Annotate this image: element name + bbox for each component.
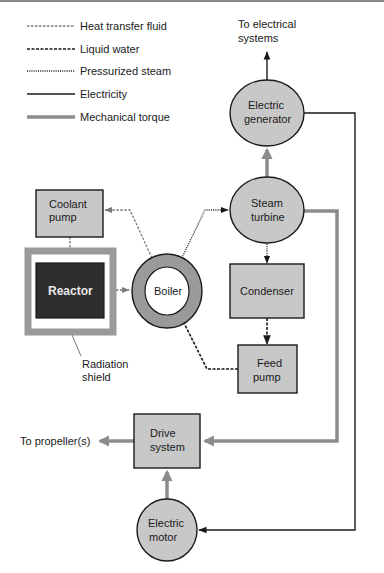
node-label: Condenser <box>240 285 294 297</box>
node-label: Drive <box>150 427 176 439</box>
steam-turbine-node: Steam turbine <box>230 177 304 243</box>
legend-label: Pressurized steam <box>80 65 171 77</box>
drive-system-node: Drive system <box>134 414 200 468</box>
node-label: Reactor <box>48 284 93 298</box>
electricity-to-motor-arrow <box>199 113 355 530</box>
node-label: pump <box>49 211 77 223</box>
legend-item-pressurized-steam: Pressurized steam <box>27 65 171 77</box>
to-electrical-systems-label: systems <box>238 32 279 44</box>
electric-generator-node: Electric generator <box>230 80 304 146</box>
node-label: Electric <box>148 517 185 529</box>
boiler-node: Boiler <box>132 254 202 328</box>
coolant-pump-node: Coolant pump <box>36 190 103 237</box>
propulsion-diagram: Heat transfer fluid Liquid water Pressur… <box>0 0 384 573</box>
legend: Heat transfer fluid Liquid water Pressur… <box>27 20 171 123</box>
reactor-node: Reactor <box>36 263 104 318</box>
legend-item-liquid-water: Liquid water <box>27 43 140 55</box>
legend-label: Heat transfer fluid <box>80 20 167 32</box>
electric-motor-node: Electric motor <box>137 499 197 561</box>
node-label: motor <box>149 531 177 543</box>
condenser-node: Condenser <box>230 264 304 318</box>
node-label: Electric <box>248 99 285 111</box>
radiation-shield-leader-line <box>72 335 81 356</box>
node-label: turbine <box>251 211 285 223</box>
node-label: Feed <box>257 357 282 369</box>
legend-item-heat-transfer-fluid: Heat transfer fluid <box>27 20 167 32</box>
radiation-shield-label: Radiation <box>82 358 128 370</box>
node-label: pump <box>253 371 281 383</box>
node-label: system <box>150 441 185 453</box>
node-label: Steam <box>251 197 283 209</box>
legend-label: Mechanical torque <box>80 111 170 123</box>
torque-turbine-to-drive-arrow <box>205 211 337 441</box>
node-label: generator <box>244 113 291 125</box>
node-label: Coolant <box>49 198 87 210</box>
legend-item-electricity: Electricity <box>27 88 128 100</box>
feed-pump-node: Feed pump <box>238 345 297 393</box>
to-electrical-systems-label: To electrical <box>238 18 296 30</box>
to-propellers-label: To propeller(s) <box>20 435 90 447</box>
legend-label: Electricity <box>80 88 128 100</box>
legend-label: Liquid water <box>80 43 140 55</box>
node-label: Boiler <box>154 285 182 297</box>
legend-item-mechanical-torque: Mechanical torque <box>27 111 170 123</box>
radiation-shield-label: shield <box>82 371 111 383</box>
